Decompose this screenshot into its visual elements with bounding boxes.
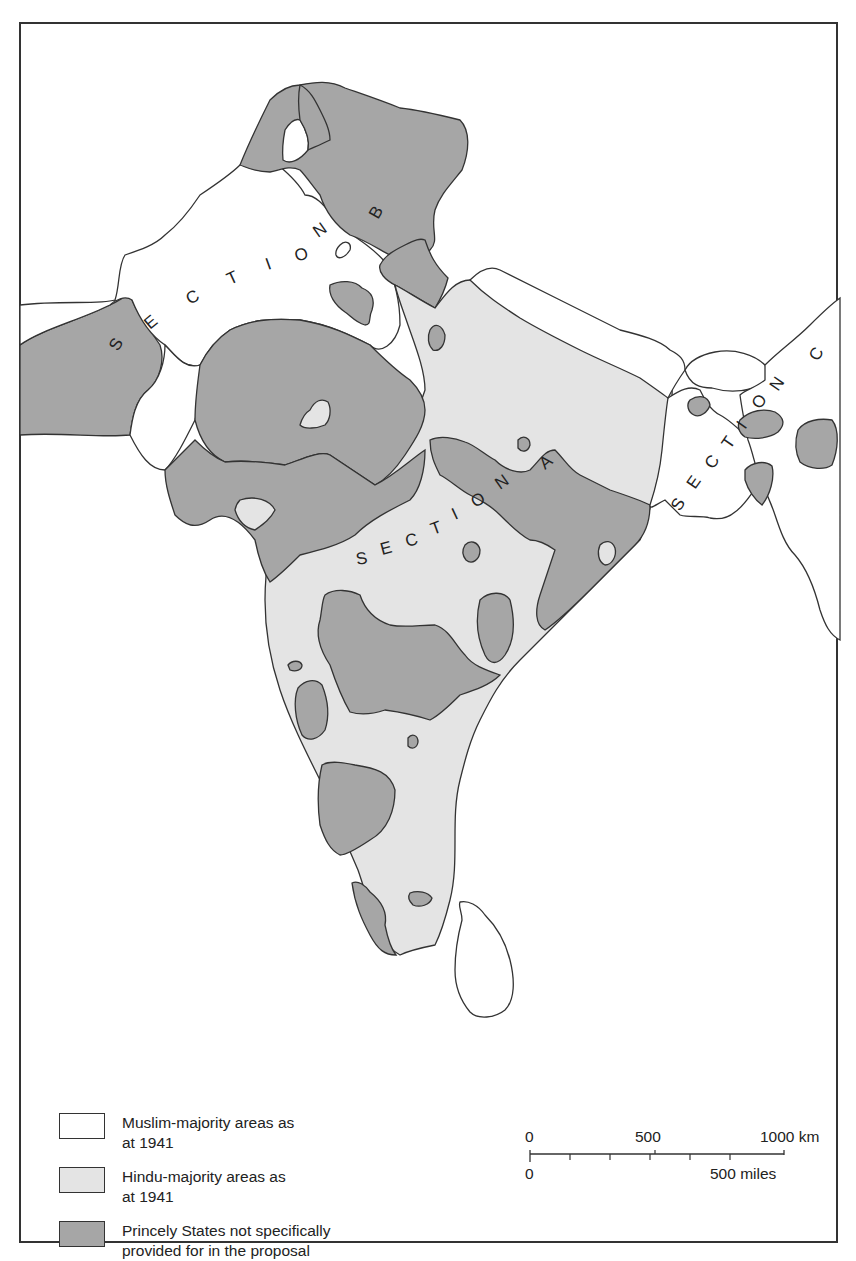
region-rampur-state	[428, 325, 445, 350]
scale-km-500: 500	[635, 1128, 661, 1146]
legend-label: Princely States not specifically provide…	[122, 1221, 382, 1261]
legend-label: Hindu-majority areas as at 1941	[122, 1167, 382, 1207]
legend-item-muslim-majority: Muslim-majority areas as at 1941	[59, 1113, 382, 1153]
legend-item-princely-states: Princely States not specifically provide…	[59, 1221, 382, 1261]
region-sikkim-bhutan	[685, 351, 768, 391]
region-small-west-state	[288, 661, 302, 671]
legend-swatch-light-gray	[59, 1167, 105, 1193]
scale-mile-500: 500 miles	[710, 1165, 776, 1183]
legend-item-hindu-majority: Hindu-majority areas as at 1941	[59, 1167, 382, 1207]
region-small-state-3	[463, 542, 480, 562]
region-small-state-2	[518, 437, 530, 451]
legend-label-line2: provided for in the proposal	[122, 1241, 382, 1261]
region-kolhapur-states	[295, 681, 328, 739]
map-legend: Muslim-majority areas as at 1941 Hindu-m…	[59, 1113, 382, 1261]
legend-label-line1: Hindu-majority areas as	[122, 1167, 382, 1187]
region-small-south-state	[408, 735, 418, 748]
legend-label-line2: at 1941	[122, 1187, 382, 1207]
legend-swatch-white	[59, 1113, 105, 1139]
region-ceylon	[455, 902, 513, 1018]
scale-bar-line	[529, 1150, 789, 1164]
scale-bar: 0 500 1000 km 0 500 miles	[525, 1128, 825, 1188]
legend-label-line2: at 1941	[122, 1133, 382, 1153]
region-manipur-state	[796, 419, 837, 468]
map-canvas: S E C T I O N B S E C T I O N A S E C T …	[0, 0, 856, 1261]
legend-label-line1: Muslim-majority areas as	[122, 1113, 382, 1133]
scale-km-1000: 1000 km	[760, 1128, 819, 1146]
scale-km-0: 0	[525, 1128, 534, 1146]
legend-label-line1: Princely States not specifically	[122, 1221, 382, 1241]
legend-swatch-dark-gray	[59, 1221, 105, 1247]
scale-mile-0: 0	[525, 1165, 534, 1183]
legend-label: Muslim-majority areas as at 1941	[122, 1113, 382, 1153]
